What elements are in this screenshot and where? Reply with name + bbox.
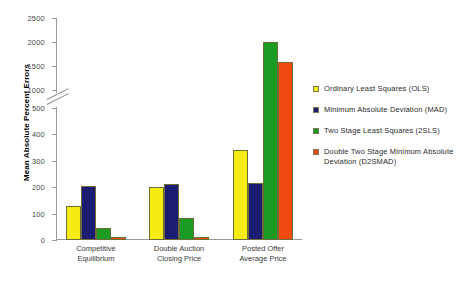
- bar-d2smad: [194, 237, 209, 240]
- plot-area: 01002003004005001000150020002500 Competi…: [56, 18, 302, 240]
- bar-ols: [149, 187, 164, 240]
- legend-item: Ordinary Least Squares (OLS): [313, 84, 465, 94]
- bar-ols: [66, 206, 81, 240]
- bar-mad: [164, 184, 179, 240]
- legend-swatch-icon: [313, 149, 319, 155]
- x-axis-label-line: Average Price: [213, 254, 313, 264]
- legend-item: Two Stage Least Squares (2SLS): [313, 126, 465, 136]
- legend-swatch-icon: [313, 107, 319, 113]
- x-axis-label: Posted OfferAverage Price: [213, 244, 313, 264]
- y-tick-0: 0: [52, 240, 57, 241]
- y-tick-label: 1000: [28, 86, 46, 95]
- legend-label: Minimum Absolute Deviation (MAD): [324, 105, 447, 115]
- bar-2sls: [263, 42, 278, 240]
- bar-group: [149, 18, 209, 240]
- y-tick-label: 0: [41, 236, 45, 245]
- bar-groups: [56, 18, 302, 240]
- y-tick-label: 300: [32, 156, 45, 165]
- bar-mad: [248, 183, 263, 240]
- bar-d2smad: [278, 62, 293, 240]
- legend-label: Ordinary Least Squares (OLS): [324, 84, 430, 94]
- legend-item: Double Two Stage Minimum Absolute Deviat…: [313, 147, 465, 166]
- bar-group: [233, 18, 293, 240]
- legend-item: Minimum Absolute Deviation (MAD): [313, 105, 465, 115]
- y-tick-label: 2500: [28, 14, 46, 23]
- y-axis-title: Mean Absolute Percent Errors: [22, 23, 31, 223]
- chart-legend: Ordinary Least Squares (OLS)Minimum Abso…: [313, 84, 465, 177]
- x-axis-label-line: Posted Offer: [213, 244, 313, 254]
- bar-d2smad: [111, 237, 126, 240]
- legend-label: Double Two Stage Minimum Absolute Deviat…: [324, 147, 465, 166]
- y-tick-label: 100: [32, 209, 45, 218]
- y-tick-label: 400: [32, 130, 45, 139]
- y-tick-label: 2000: [28, 38, 46, 47]
- bar-chart: Mean Absolute Percent Errors 01002003004…: [0, 0, 469, 281]
- bar-ols: [233, 150, 248, 240]
- legend-label: Two Stage Least Squares (2SLS): [324, 126, 440, 136]
- y-tick-label: 500: [32, 104, 45, 113]
- bar-2sls: [179, 218, 194, 240]
- bar-group: [66, 18, 126, 240]
- y-tick-label: 200: [32, 183, 45, 192]
- y-tick-label: 1500: [28, 62, 46, 71]
- legend-swatch-icon: [313, 128, 319, 134]
- bar-2sls: [96, 228, 111, 240]
- bar-mad: [81, 186, 96, 240]
- legend-swatch-icon: [313, 86, 319, 92]
